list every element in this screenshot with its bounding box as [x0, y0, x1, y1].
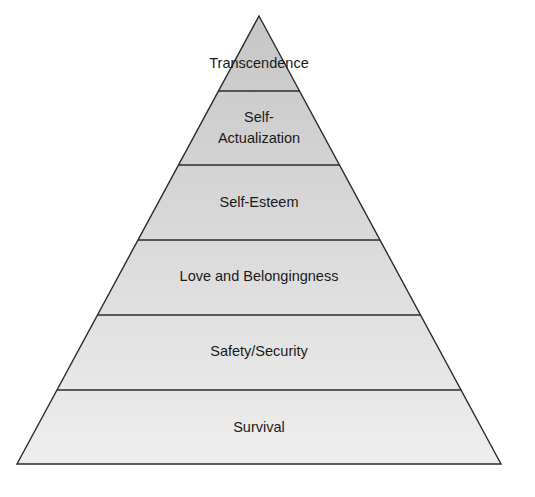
tier-label-text: Actualization: [0, 128, 518, 149]
tier-label-text: Survival: [233, 419, 285, 435]
tier-self-actualization: Self- Actualization: [0, 107, 518, 149]
tier-label-text: Love and Belongingness: [180, 268, 339, 284]
tier-love-and-belongingness: Love and Belongingness: [0, 266, 518, 287]
tier-label-text: Transcendence: [209, 55, 308, 71]
tier-survival: Survival: [0, 417, 518, 438]
tier-self-esteem: Self-Esteem: [0, 192, 518, 213]
tier-label-text: Self-: [0, 107, 518, 128]
tier-label-text: Self-Esteem: [220, 194, 299, 210]
tier-transcendence: Transcendence: [0, 53, 518, 74]
tier-label-text: Safety/Security: [210, 343, 308, 359]
tier-safety-security: Safety/Security: [0, 341, 518, 362]
